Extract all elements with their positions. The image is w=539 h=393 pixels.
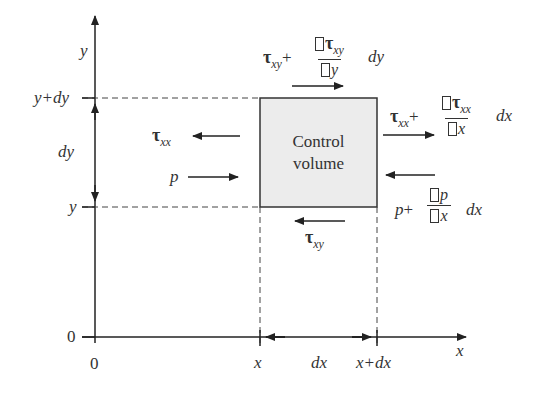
origin-y-label: 0 — [67, 328, 76, 345]
y-plus-dy-label: y+dy — [34, 89, 69, 106]
right-normal-tail: dx — [496, 107, 512, 124]
left-p-label: p — [170, 168, 179, 185]
origin-x-label: 0 — [90, 355, 99, 372]
x-plus-dx-label: x+dx — [356, 354, 391, 371]
top-shear-base: τxy+ — [263, 48, 292, 70]
bottom-tau-xy-label: τxy — [305, 228, 324, 250]
partial-glyph-icon — [321, 63, 330, 77]
diagram-canvas: y x 0 0 y+dy y dy x dx x+dx Controlvolum… — [0, 0, 539, 393]
dx-label: dx — [311, 354, 327, 371]
x-axis-label: x — [456, 342, 464, 359]
control-volume-label: Controlvolume — [260, 98, 377, 207]
dy-label: dy — [58, 143, 74, 160]
right-normal-fraction: τxx x — [439, 92, 474, 138]
partial-glyph-icon — [315, 37, 324, 51]
partial-glyph-icon — [448, 122, 457, 136]
partial-glyph-icon — [430, 188, 439, 202]
x-label: x — [254, 354, 262, 371]
y-axis-label: y — [80, 42, 88, 59]
partial-glyph-icon — [430, 209, 439, 223]
right-pressure-tail: dx — [466, 201, 482, 218]
partial-glyph-icon — [442, 96, 451, 110]
left-tau-xx-label: τxx — [152, 126, 171, 148]
y-label: y — [69, 198, 77, 215]
right-pressure-base: p+ — [395, 201, 413, 218]
top-shear-fraction: τxy y — [312, 33, 347, 79]
right-normal-base: τxx+ — [390, 107, 419, 129]
right-pressure-fraction: p x — [427, 186, 451, 225]
top-shear-tail: dy — [368, 48, 384, 65]
